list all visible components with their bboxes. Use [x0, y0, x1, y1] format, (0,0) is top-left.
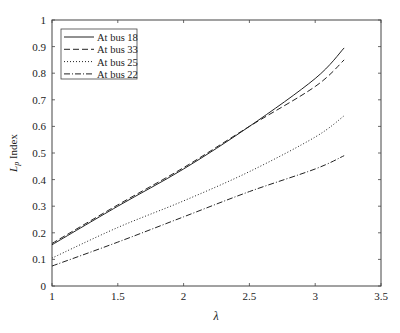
x-tick-label: 2: [181, 290, 187, 302]
y-tick-label: 1: [41, 14, 47, 26]
series-line-dashdot: [52, 156, 344, 266]
series-line-dashed: [52, 60, 344, 244]
y-tick-label: 0.9: [32, 41, 46, 53]
y-tick-label: 0.7: [32, 94, 46, 106]
y-tick-label: 0.8: [32, 67, 46, 79]
legend-label: At bus 22: [97, 69, 138, 80]
y-tick-label: 0.3: [32, 200, 46, 212]
line-chart: 11.522.533.500.10.20.30.40.50.60.70.80.9…: [0, 0, 400, 333]
y-axis-label: Lp Index: [7, 134, 21, 173]
series-lines: [52, 48, 344, 266]
x-tick-label: 3: [312, 290, 318, 302]
y-tick-label: 0.1: [32, 253, 46, 265]
legend-label: At bus 25: [97, 57, 138, 68]
x-tick-label: 1.5: [111, 290, 125, 302]
y-tick-label: 0.2: [32, 227, 46, 239]
legend-label: At bus 33: [97, 44, 138, 55]
x-tick-label: 1: [49, 290, 55, 302]
y-tick-label: 0: [41, 280, 47, 292]
legend: At bus 18At bus 33At bus 25At bus 22: [61, 29, 138, 80]
y-tick-label: 0.4: [32, 174, 46, 186]
x-axis-label: λ: [212, 309, 218, 323]
y-tick-label: 0.5: [32, 147, 46, 159]
series-line-dotted: [52, 116, 344, 258]
x-tick-label: 2.5: [243, 290, 257, 302]
x-tick-label: 3.5: [374, 290, 388, 302]
y-tick-label: 0.6: [32, 120, 46, 132]
legend-label: At bus 18: [97, 32, 138, 43]
